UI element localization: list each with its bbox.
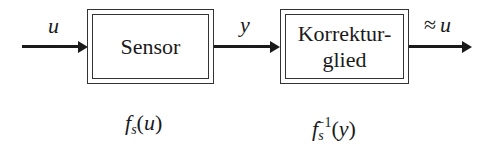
korrekturglied-label-line-2: glied — [323, 47, 367, 73]
korr-fn-sup: −1 — [317, 115, 332, 130]
sensor-function-label: fs(u) — [125, 111, 162, 142]
korrekturglied-label-line-1: Korrektur- — [298, 21, 392, 47]
korrekturglied-function-label: fs−1(y) — [312, 111, 356, 144]
intermediate-signal-label: y — [240, 14, 250, 36]
output-signal: u — [440, 12, 451, 37]
middle-arrow-head-icon — [270, 41, 280, 53]
middle-arrow-line — [214, 45, 272, 48]
output-signal-label: ≈u — [424, 14, 451, 36]
korr-fn-sub: s — [318, 128, 323, 143]
sensor-fn-arg: u — [144, 110, 155, 135]
korr-fn-arg: y — [339, 116, 349, 141]
sensor-label: Sensor — [121, 34, 181, 60]
input-signal-label: u — [48, 15, 59, 37]
output-arrow-head-icon — [462, 41, 472, 53]
korrekturglied-block: Korrektur- glied — [285, 14, 404, 79]
approx-symbol: ≈ — [424, 12, 436, 37]
input-arrow-line — [22, 45, 80, 48]
sensor-block: Sensor — [92, 14, 209, 79]
output-arrow-line — [409, 45, 464, 48]
